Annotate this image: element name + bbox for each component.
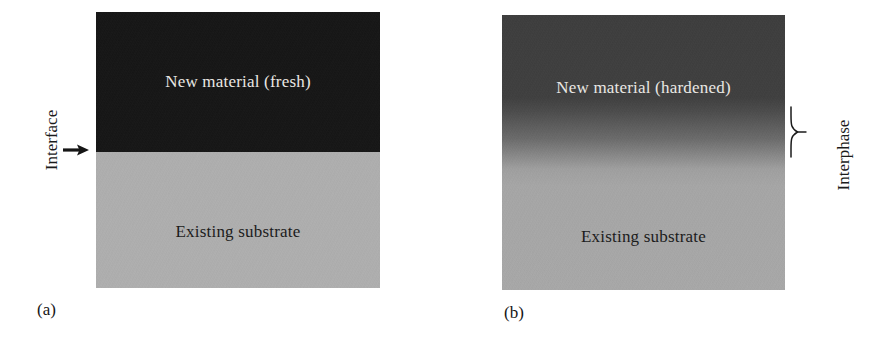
interphase-label: Interphase	[834, 80, 854, 230]
panel-a-existing-substrate-label: Existing substrate	[96, 222, 380, 242]
panel-b-graded-interphase: New material (hardened) Existing substra…	[502, 15, 785, 290]
panel-a-sharp-interface: New material (fresh) Existing substrate	[96, 12, 380, 288]
figure-root: New material (fresh) Existing substrate …	[0, 0, 878, 345]
panel-b-new-material-label: New material (hardened)	[502, 78, 785, 98]
interphase-annotation: Interphase	[786, 78, 850, 238]
caption-b: (b)	[504, 303, 524, 323]
panel-a-existing-substrate-region	[96, 152, 380, 288]
interface-label: Interface	[42, 90, 62, 190]
panel-b-existing-substrate-label: Existing substrate	[502, 227, 785, 247]
right-arrow-icon	[62, 140, 90, 160]
caption-a: (a)	[37, 300, 56, 320]
interface-annotation: Interface	[22, 100, 98, 205]
panel-a-new-material-label: New material (fresh)	[96, 72, 380, 92]
panel-b-grain-texture	[502, 15, 785, 290]
curly-brace-icon	[788, 106, 808, 158]
